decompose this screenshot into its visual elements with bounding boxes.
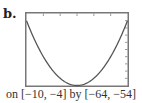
figure-label: b. — [3, 6, 17, 21]
tick-marks — [43, 14, 127, 79]
parabola-curve — [27, 21, 128, 86]
plot-frame — [26, 13, 129, 87]
graph-window — [25, 12, 129, 87]
window-caption: on [−10, −4] by [−64, −54] — [0, 87, 142, 102]
